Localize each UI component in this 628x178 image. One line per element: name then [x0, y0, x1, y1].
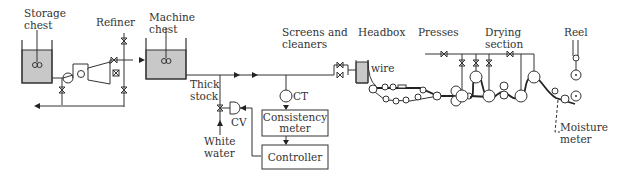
- thick-stock-label-2: stock: [190, 90, 219, 102]
- reel-section: [561, 40, 581, 103]
- refiner-icon: [88, 62, 110, 84]
- roll-icon: [500, 91, 508, 99]
- thick-stock-label-1: Thick: [190, 78, 220, 90]
- roll-icon: [393, 98, 399, 104]
- headbox-label: Headbox: [358, 26, 405, 38]
- storage-chest-label-2: chest: [24, 19, 53, 31]
- roll-icon: [369, 85, 377, 93]
- dryer-cylinder-icon: [470, 71, 482, 83]
- moisture-meter-label-2: meter: [560, 133, 593, 145]
- wire-label: wire: [371, 62, 395, 74]
- roll-icon: [433, 92, 441, 100]
- roll-icon: [415, 94, 421, 100]
- arrow-up-icon: [217, 120, 223, 126]
- moisture-meter-label-1: Moisture: [560, 121, 608, 133]
- dryer-cylinder-icon: [515, 90, 527, 102]
- storage-chest-label-1: Storage: [24, 7, 66, 19]
- cv-label: CV: [231, 116, 247, 128]
- ct-sensor-icon: [280, 90, 292, 102]
- refiner-label: Refiner: [96, 16, 136, 28]
- screens-label-2: cleaners: [282, 38, 327, 50]
- controller-label: Controller: [268, 151, 324, 163]
- consistency-meter-label-2: meter: [279, 122, 312, 134]
- machine-chest: [146, 28, 186, 79]
- screens-label-1: Screens and: [282, 26, 348, 38]
- ct-label: CT: [293, 90, 308, 102]
- machine-chest-label-1: Machine: [149, 11, 195, 23]
- roll-icon: [383, 96, 389, 102]
- reel-spool-icon: [573, 55, 579, 61]
- arrow-right-icon: [234, 72, 240, 78]
- suction-box-icon: [398, 85, 406, 88]
- motor-icon: [78, 71, 85, 78]
- arrow-down-icon: [283, 140, 289, 145]
- machine-chest-label-2: chest: [149, 23, 178, 35]
- presses-label: Presses: [418, 26, 459, 38]
- roll-icon: [561, 95, 569, 103]
- roll-icon: [552, 88, 558, 94]
- reel-label: Reel: [564, 26, 588, 38]
- arrow-left-icon: [240, 105, 246, 111]
- arrow-down-icon: [283, 105, 289, 110]
- arrow-right-icon: [139, 57, 145, 63]
- white-water-label-2: water: [204, 147, 236, 159]
- arrow-right-icon: [252, 72, 258, 78]
- drying-section-label-2: section: [485, 38, 523, 50]
- dryer-cylinder-icon: [483, 90, 495, 102]
- dryer-cylinder-icon: [528, 71, 540, 83]
- storage-chest: [22, 30, 52, 83]
- reel-center: [575, 95, 577, 97]
- pump-icon: [63, 73, 73, 83]
- dryer-cylinder-icon: [456, 90, 468, 102]
- roll-icon: [382, 84, 388, 90]
- drying-section-label-1: Drying: [485, 26, 521, 38]
- arrow-left-icon: [34, 103, 40, 109]
- paper-machine-diagram: Storage chest Refiner: [0, 0, 628, 178]
- refiner-control-icon: [113, 70, 119, 76]
- white-water-label-1: White: [204, 135, 235, 147]
- screens-cleaners-icon: [334, 62, 356, 78]
- reel-center: [575, 74, 577, 76]
- roll-icon: [420, 87, 426, 93]
- roll-icon: [390, 84, 396, 90]
- roll-icon: [500, 82, 508, 90]
- roll-icon: [403, 97, 409, 103]
